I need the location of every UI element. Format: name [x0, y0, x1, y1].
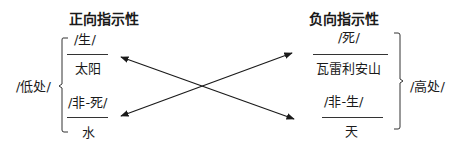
diagram-graphics	[0, 0, 468, 147]
arrow-sun-sky	[121, 57, 294, 119]
arrow-water-mountain	[121, 53, 292, 116]
right-brace-icon	[394, 33, 403, 129]
left-brace-icon	[59, 38, 68, 132]
